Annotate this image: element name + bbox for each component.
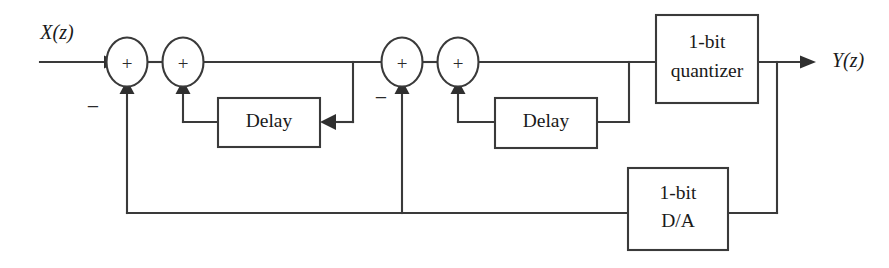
block-delay-2-label: Delay [523, 110, 570, 131]
sigma-delta-block-diagram: + − + + − + Delay Delay 1-bit quantizer … [0, 0, 889, 268]
summer-4-plus: + [453, 53, 464, 74]
summer-1-plus: + [122, 53, 133, 74]
arrow-into-delay1 [320, 114, 336, 130]
summer-1-minus-sign: − [87, 94, 99, 119]
output-signal-label: Y(z) [832, 49, 865, 72]
summer-3-minus-sign: − [375, 85, 387, 110]
input-signal-label: X(z) [39, 21, 74, 44]
block-dac-label-line2: D/A [661, 210, 695, 231]
summer-3-plus: + [397, 53, 408, 74]
block-dac-label-line1: 1-bit [660, 182, 697, 203]
block-quantizer-label-line1: 1-bit [689, 31, 726, 52]
arrow-output-Yz [800, 56, 816, 69]
summer-2-plus: + [178, 53, 189, 74]
block-quantizer[interactable] [656, 15, 758, 103]
block-quantizer-label-line2: quantizer [671, 60, 744, 81]
block-delay-1-label: Delay [246, 110, 293, 131]
block-dac[interactable] [628, 168, 728, 250]
block-diagram-canvas: + − + + − + Delay Delay 1-bit quantizer … [0, 0, 889, 268]
